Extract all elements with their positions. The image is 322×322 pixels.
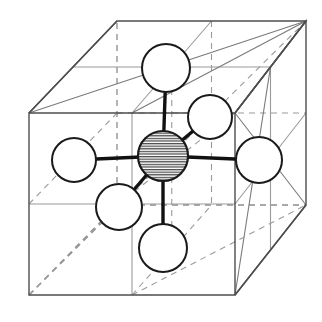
ligand-atom-left — [52, 138, 96, 182]
central-atom — [138, 131, 188, 181]
ligand-atom-back-upper — [188, 95, 232, 139]
crystal-structure-diagram: Octahedral coordination of a central ato… — [0, 0, 322, 322]
ligand-atom-bottom — [139, 224, 187, 272]
ligand-atom-front-lower — [96, 184, 142, 230]
ligand-atom-right — [236, 137, 282, 183]
ligand-atom-top — [142, 44, 190, 92]
crystal-structure-figure: Octahedral coordination of a central ato… — [0, 0, 322, 322]
